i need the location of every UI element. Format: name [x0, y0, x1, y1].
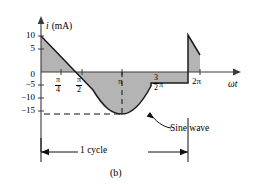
y-tick-label-minus10: −10 [14, 93, 35, 102]
x-tick-label-2pi: 2π [192, 77, 201, 86]
x-tick-label-pi: π [118, 77, 123, 86]
y-axis-title: i(mA) [46, 22, 72, 32]
figure-caption: (b) [110, 168, 122, 178]
y-axis-arrowhead [38, 16, 45, 24]
x-tick-label-pi-over-4: π 4 [55, 76, 61, 94]
y-tick-label-10: 10 [14, 31, 35, 40]
y-tick-label-minus15: −15 [14, 106, 35, 115]
sine-wave-annotation: Sine wave [170, 124, 209, 134]
x-tick-denominator: 4 [55, 85, 61, 94]
one-cycle-annotation: 1 cycle [80, 146, 107, 156]
waveform-plot [0, 0, 262, 184]
x-axis-arrowhead [233, 69, 241, 76]
x-tick-label-3pi-over-2: 3 2 π [153, 74, 163, 92]
cycle-dimension [41, 118, 188, 162]
x-axis-title: ωt [228, 80, 237, 90]
shaded-area-final-pulse [188, 35, 200, 72]
x-tick-numerator: π [55, 76, 61, 84]
y-axis-symbol: i [46, 21, 49, 31]
sine-wave-leader-arrow [150, 113, 171, 128]
y-axis-unit: (mA) [52, 21, 73, 31]
y-tick-label-0: 0 [14, 70, 35, 79]
sine-wave-arrowhead [147, 112, 154, 119]
x-tick-numerator: π [76, 76, 82, 84]
x-tick-suffix: π [159, 80, 163, 89]
x-tick-denominator: 2 [76, 85, 82, 94]
waveform-figure: i(mA) ωt 10 5 0 −5 −10 −15 π 4 π 2 π 3 2… [0, 0, 262, 184]
y-tick-label-5: 5 [14, 44, 35, 53]
y-tick-label-minus5: −5 [14, 80, 35, 89]
shaded-area-negative-lobe [76, 72, 157, 114]
x-tick-label-pi-over-2: π 2 [76, 76, 82, 94]
